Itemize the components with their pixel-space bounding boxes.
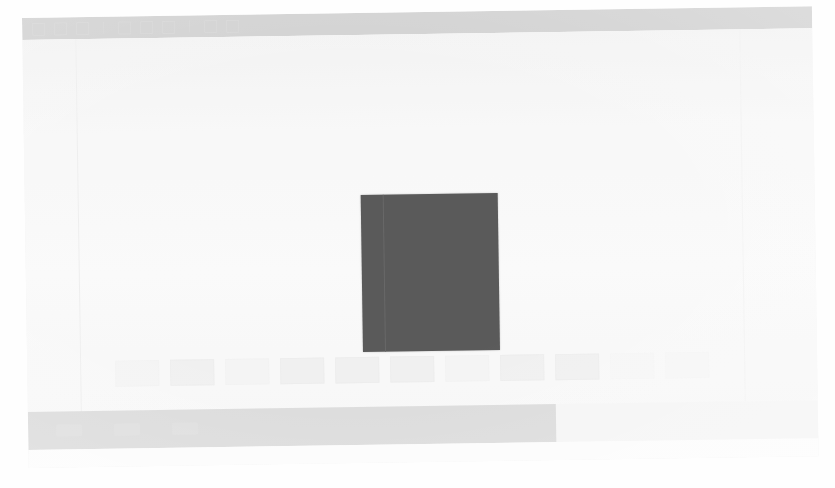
save-icon[interactable]: [54, 22, 67, 35]
settings-icon[interactable]: [226, 19, 239, 32]
application-window: [22, 6, 819, 468]
thumbnail-label: [116, 384, 158, 385]
thumbnail-label: [281, 382, 323, 383]
thumbnail-label: [611, 377, 653, 378]
stage-caption: [361, 193, 500, 352]
list-item[interactable]: [170, 359, 214, 386]
thumbnail-label: [446, 379, 488, 380]
list-item[interactable]: [500, 354, 544, 381]
print-icon[interactable]: [76, 22, 89, 35]
toolbar-group-view: [204, 19, 239, 33]
list-item[interactable]: [610, 353, 654, 380]
toolbar-spacer: [253, 18, 788, 26]
list-item[interactable]: [555, 353, 599, 380]
zoom-in-icon[interactable]: [140, 21, 153, 34]
status-badge[interactable]: [172, 422, 198, 434]
status-badge[interactable]: [56, 424, 82, 436]
list-item[interactable]: [115, 360, 159, 387]
screenshot-canvas: [0, 0, 835, 488]
toolbar-divider: [103, 22, 104, 34]
list-item[interactable]: [225, 358, 269, 385]
stage-area: [22, 28, 817, 358]
fit-page-icon[interactable]: [162, 20, 175, 33]
list-item[interactable]: [445, 355, 489, 382]
rotate-icon[interactable]: [204, 20, 217, 33]
toolbar-group-zoom: [118, 20, 175, 34]
zoom-out-icon[interactable]: [118, 21, 131, 34]
status-badge[interactable]: [114, 423, 140, 435]
thumbnail-label: [556, 377, 598, 378]
statusbar-tail: [556, 400, 819, 442]
thumbnail-label: [336, 381, 378, 382]
list-item[interactable]: [280, 358, 324, 385]
document-stage[interactable]: [361, 193, 500, 352]
toolbar-divider: [189, 21, 190, 33]
thumbnail-label: [666, 376, 708, 377]
document-body: [22, 28, 818, 468]
thumbnail-label: [226, 382, 268, 383]
list-item[interactable]: [335, 357, 379, 384]
open-icon[interactable]: [32, 22, 45, 35]
thumbnail-label: [391, 380, 433, 381]
toolbar-group-file: [32, 22, 89, 36]
list-item[interactable]: [390, 356, 434, 383]
thumbnail-label: [171, 383, 213, 384]
thumbnail-label: [501, 378, 543, 379]
list-item[interactable]: [665, 352, 709, 379]
